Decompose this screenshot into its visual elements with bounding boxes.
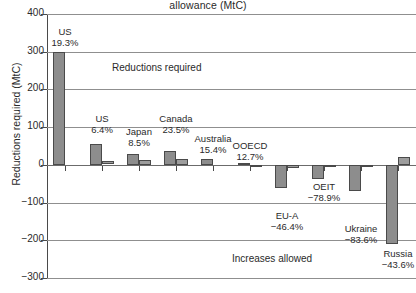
bar xyxy=(201,159,213,165)
group-percent: −78.9% xyxy=(294,192,354,203)
zone-annotation: Increases allowed xyxy=(232,253,312,264)
bar xyxy=(398,157,410,165)
gridline-200 xyxy=(47,89,416,90)
group-name: US xyxy=(72,113,132,124)
y-tick-mark xyxy=(41,278,47,279)
group-percent: −46.4% xyxy=(257,221,317,232)
x-tick-mark xyxy=(102,166,103,171)
bar xyxy=(312,165,324,179)
group-label-ooecd-5: OOECD12.7% xyxy=(220,140,280,162)
y-tick-label: 100 xyxy=(0,120,44,131)
group-name: Canada xyxy=(146,113,206,124)
zone-annotation: Reductions required xyxy=(112,62,202,73)
y-tick-label: −100 xyxy=(0,196,44,207)
y-tick-label: 400 xyxy=(0,7,44,18)
bar xyxy=(102,161,114,164)
group-percent: 12.7% xyxy=(220,151,280,162)
bar xyxy=(275,165,287,188)
y-tick-mark xyxy=(41,240,47,241)
y-tick-label: 200 xyxy=(0,82,44,93)
bar xyxy=(287,165,299,168)
x-tick-mark xyxy=(213,166,214,171)
y-tick-mark xyxy=(41,127,47,128)
bar xyxy=(164,151,176,165)
bar xyxy=(238,163,250,165)
bar xyxy=(324,165,336,167)
group-percent: −43.6% xyxy=(368,259,416,270)
y-tick-label: −200 xyxy=(0,233,44,244)
bar xyxy=(176,159,188,165)
group-name: Ukraine xyxy=(331,223,391,234)
y-tick-mark xyxy=(41,52,47,53)
group-name: OOECD xyxy=(220,140,280,151)
x-tick-mark xyxy=(139,166,140,171)
x-tick-mark xyxy=(65,166,66,171)
bar xyxy=(361,165,373,167)
gridline-300 xyxy=(47,52,416,53)
y-tick-label: 0 xyxy=(0,158,44,169)
gridline--100 xyxy=(47,203,416,204)
bar xyxy=(250,165,262,167)
chart-title: allowance (MtC) xyxy=(0,0,416,11)
gridline--300 xyxy=(47,278,416,279)
bar xyxy=(139,160,151,165)
group-name: Russia xyxy=(368,248,416,259)
x-tick-mark xyxy=(398,166,399,171)
group-percent: 8.5% xyxy=(109,137,169,148)
group-label-canada-3: Canada23.5% xyxy=(146,113,206,135)
y-tick-label: −300 xyxy=(0,271,44,282)
group-name: EU-A xyxy=(257,210,317,221)
chart-root: allowance (MtC) Reductions required (MtC… xyxy=(0,0,416,293)
group-label-oeit-7: OEIT−78.9% xyxy=(294,181,354,203)
group-percent: −83.6% xyxy=(331,234,391,245)
y-axis-line xyxy=(47,14,48,279)
group-name: US xyxy=(35,26,95,37)
group-label-eu-a-6: EU-A−46.4% xyxy=(257,210,317,232)
x-tick-mark xyxy=(176,166,177,171)
bar xyxy=(53,52,65,165)
group-label-us-0: US19.3% xyxy=(35,26,95,48)
y-tick-mark xyxy=(41,165,47,166)
group-name: OEIT xyxy=(294,181,354,192)
group-label-russia-9: Russia−43.6% xyxy=(368,248,416,270)
y-tick-mark xyxy=(41,14,47,15)
bar xyxy=(90,144,102,165)
group-label-ukraine-8: Ukraine−83.6% xyxy=(331,223,391,245)
bar xyxy=(127,154,139,165)
group-percent: 19.3% xyxy=(35,37,95,48)
gridline-400 xyxy=(47,14,416,15)
y-tick-mark xyxy=(41,89,47,90)
y-tick-mark xyxy=(41,203,47,204)
